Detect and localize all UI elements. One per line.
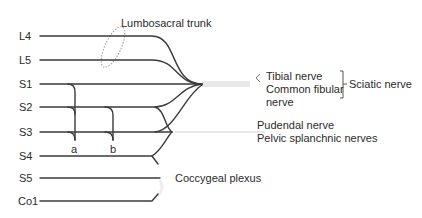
plexus-diagram — [0, 0, 422, 218]
root-label-co1: Co1 — [18, 195, 38, 207]
root-label-l4: L4 — [19, 30, 31, 42]
common-fibular-label: Common fibular — [266, 83, 344, 95]
tibial-nerve-label: Tibial nerve — [266, 70, 322, 82]
sciatic-nerve-label: Sciatic nerve — [349, 78, 412, 90]
branch-a-s3-hook — [68, 132, 75, 140]
pudendal-nerve-label: Pudendal nerve — [257, 119, 334, 131]
sciatic-nerve-band — [202, 81, 250, 87]
root-label-s3: S3 — [19, 126, 32, 138]
branch-b-label: b — [110, 143, 116, 155]
lumbosacral-trunk-ellipse — [96, 24, 129, 71]
branch-a-label: a — [71, 143, 77, 155]
root-label-l5: L5 — [19, 54, 31, 66]
branch-a-s2-hook — [68, 107, 75, 114]
root-label-s4: S4 — [19, 150, 32, 162]
common-fibular-label-2: nerve — [266, 96, 294, 108]
root-line-co1 — [40, 194, 158, 201]
root-line-s2 — [40, 84, 202, 107]
root-line-s4 — [40, 132, 172, 156]
chevron-left-icon — [256, 74, 260, 82]
lumbosacral-trunk-label: Lumbosacral trunk — [121, 17, 212, 29]
root-label-s1: S1 — [19, 78, 32, 90]
root-line-l5 — [40, 60, 202, 84]
s4-stub — [152, 156, 158, 164]
branch-b-s3-hook — [105, 132, 113, 140]
coccygeal-plexus-label: Coccygeal plexus — [175, 172, 261, 184]
root-label-s5: S5 — [19, 172, 32, 184]
coccygeal-band — [158, 180, 162, 196]
s3-to-sciatic — [155, 85, 202, 132]
pelvic-splanchnic-label: Pelvic splanchnic nerves — [257, 132, 377, 144]
root-label-s2: S2 — [19, 101, 32, 113]
